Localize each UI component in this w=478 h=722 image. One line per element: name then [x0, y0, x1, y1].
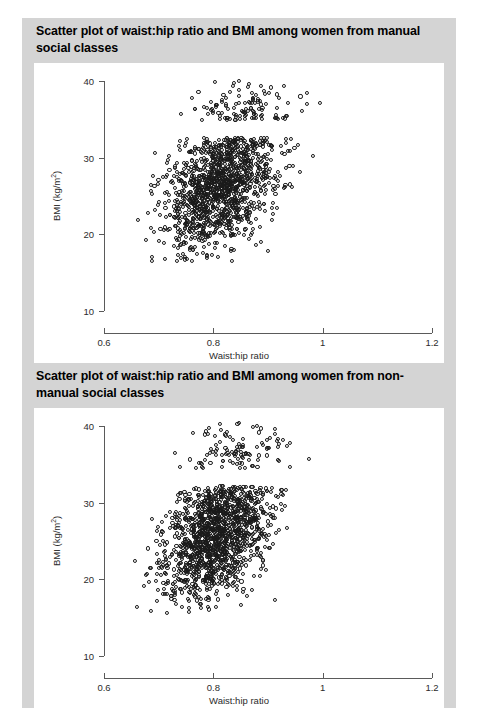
- scatter-point: [251, 200, 255, 204]
- scatter-point: [199, 606, 203, 610]
- scatter-point: [164, 514, 168, 518]
- scatter-point: [273, 432, 277, 436]
- scatter-point: [270, 148, 274, 152]
- scatter-point: [245, 196, 249, 200]
- y-tick-label: 10: [72, 306, 94, 317]
- scatter-point: [227, 453, 231, 457]
- x-tick: [213, 673, 214, 678]
- scatter-point: [187, 492, 191, 496]
- scatter-point: [247, 237, 251, 241]
- scatter-point: [155, 552, 159, 556]
- scatter-point: [266, 524, 270, 528]
- scatter-point: [284, 488, 288, 492]
- x-axis-line: [104, 678, 432, 679]
- scatter-point: [177, 536, 181, 540]
- scatter-point: [184, 241, 188, 245]
- scatter-point: [187, 606, 191, 610]
- scatter-point: [258, 574, 262, 578]
- scatter-point: [158, 543, 162, 547]
- scatter-point: [150, 259, 154, 263]
- scatter-point: [218, 422, 222, 426]
- scatter-point: [187, 610, 191, 614]
- y-tick-label: 10: [72, 651, 94, 662]
- scatter-point: [254, 217, 258, 221]
- x-tick: [323, 673, 324, 678]
- scatter-point: [197, 179, 201, 183]
- scatter-point: [264, 102, 268, 106]
- scatter-point: [238, 466, 242, 470]
- scatter-point: [195, 252, 199, 256]
- scatter-point: [209, 253, 213, 257]
- scatter-point: [248, 558, 252, 562]
- y-tick: [99, 311, 104, 312]
- y-tick-label: 40: [72, 421, 94, 432]
- scatter-point: [278, 174, 282, 178]
- scatter-point: [289, 137, 293, 141]
- scatter-point: [232, 81, 236, 85]
- scatter-point: [261, 177, 265, 181]
- scatter-point: [171, 181, 175, 185]
- scatter-point: [216, 255, 220, 259]
- y-tick-label: 40: [72, 76, 94, 87]
- x-tick-label: 1.2: [425, 337, 438, 348]
- scatter-point: [296, 143, 300, 147]
- scatter-point: [156, 588, 160, 592]
- scatter-point: [285, 525, 289, 529]
- scatter-point: [200, 250, 204, 254]
- scatter-point: [232, 106, 236, 110]
- scatter-point: [228, 117, 232, 121]
- scatter-point: [205, 453, 209, 457]
- scatter-point: [247, 453, 251, 457]
- scatter-point: [173, 186, 177, 190]
- scatter-point: [282, 186, 286, 190]
- scatter-point: [171, 574, 175, 578]
- scatter-point: [273, 598, 277, 602]
- scatter-point: [292, 146, 296, 150]
- scatter-point: [162, 587, 166, 591]
- scatter-point: [179, 112, 183, 116]
- scatter-point: [263, 192, 267, 196]
- scatter-point: [175, 259, 179, 263]
- scatter-point: [268, 436, 272, 440]
- scatter-point: [288, 465, 292, 469]
- scatter-point: [275, 206, 279, 210]
- scatter-point: [186, 578, 190, 582]
- scatter-point: [239, 579, 243, 583]
- scatter-point: [173, 451, 177, 455]
- scatter-point: [243, 466, 247, 470]
- scatter-point: [255, 445, 259, 449]
- x-tick: [323, 328, 324, 333]
- plot-panel-manual: 102030400.60.811.2Waist:hip ratioBMI (kg…: [34, 63, 444, 363]
- x-axis-line: [104, 333, 432, 334]
- scatter-point: [200, 118, 204, 122]
- figure-frame: Scatter plot of waist:hip ratio and BMI …: [22, 18, 456, 708]
- scatter-point: [217, 138, 221, 142]
- x-tick-label: 0.8: [207, 337, 220, 348]
- scatter-point: [256, 458, 260, 462]
- scatter-point: [269, 158, 273, 162]
- scatter-point: [255, 465, 259, 469]
- scatter-point: [268, 546, 272, 550]
- scatter-point: [167, 168, 171, 172]
- scatter-point: [259, 426, 263, 430]
- scatter-point: [157, 239, 161, 243]
- scatter-point: [279, 144, 283, 148]
- scatter-point: [168, 510, 172, 514]
- scatter-point: [244, 113, 248, 117]
- scatter-point: [196, 90, 200, 94]
- scatter-point: [253, 146, 257, 150]
- x-tick: [213, 328, 214, 333]
- scatter-point: [194, 466, 198, 470]
- x-tick-label: 0.6: [97, 337, 110, 348]
- y-tick: [99, 656, 104, 657]
- scatter-point: [221, 459, 225, 463]
- scatter-point: [178, 148, 182, 152]
- scatter-point: [151, 174, 155, 178]
- scatter-point: [206, 432, 210, 436]
- scatter-point: [208, 224, 212, 228]
- scatter-point: [270, 218, 274, 222]
- cut-off-caption: [26, 710, 446, 722]
- x-tick: [432, 328, 433, 333]
- y-axis-title: BMI (kg/m2): [50, 516, 62, 566]
- scatter-point: [256, 194, 260, 198]
